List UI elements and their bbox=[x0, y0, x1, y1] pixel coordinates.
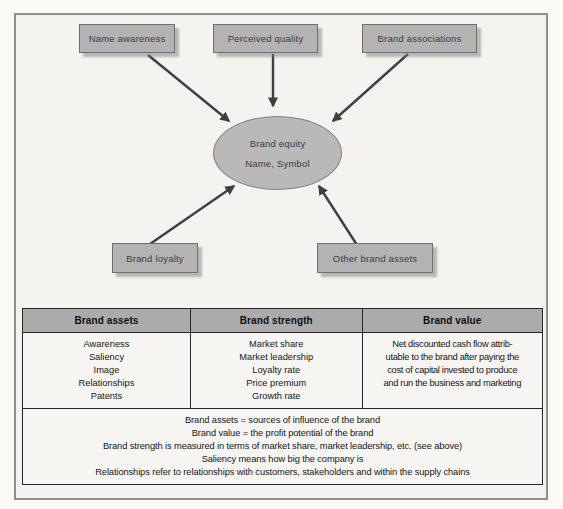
box-brand-associations: Brand associations bbox=[362, 24, 477, 53]
box-other-brand-assets: Other brand assets bbox=[317, 243, 433, 273]
brand-equity-ellipse: Brand equity Name, Symbol bbox=[213, 116, 342, 190]
box-perceived-quality: Perceived quality bbox=[213, 24, 318, 53]
brand-equity-subtitle: Name, Symbol bbox=[245, 158, 310, 169]
box-other-brand-assets-label: Other brand assets bbox=[333, 253, 417, 264]
brand-attributes-table: Brand assets Brand strength Brand value … bbox=[22, 308, 543, 485]
box-brand-associations-label: Brand associations bbox=[378, 33, 462, 44]
column-header-brand-assets: Brand assets bbox=[23, 309, 191, 333]
column-header-brand-value: Brand value bbox=[362, 309, 542, 333]
box-name-awareness-label: Name awareness bbox=[89, 33, 166, 44]
box-brand-loyalty: Brand loyalty bbox=[112, 243, 198, 273]
cell-brand-strength: Market share Market leadership Loyalty r… bbox=[190, 333, 362, 409]
cell-brand-value: Net discounted cash flow attrib- utable … bbox=[362, 333, 542, 409]
cell-notes: Brand assets = sources of influence of t… bbox=[23, 409, 543, 485]
table-body-row: Awareness Saliency Image Relationships P… bbox=[23, 333, 543, 409]
column-header-brand-strength: Brand strength bbox=[190, 309, 362, 333]
table-header-row: Brand assets Brand strength Brand value bbox=[23, 309, 543, 333]
box-perceived-quality-label: Perceived quality bbox=[228, 33, 304, 44]
table-notes-row: Brand assets = sources of influence of t… bbox=[23, 409, 543, 485]
box-brand-loyalty-label: Brand loyalty bbox=[126, 253, 184, 264]
box-name-awareness: Name awareness bbox=[79, 24, 175, 53]
cell-brand-assets: Awareness Saliency Image Relationships P… bbox=[23, 333, 191, 409]
figure-page: Name awareness Perceived quality Brand a… bbox=[0, 0, 563, 509]
brand-equity-title: Brand equity bbox=[250, 138, 306, 149]
